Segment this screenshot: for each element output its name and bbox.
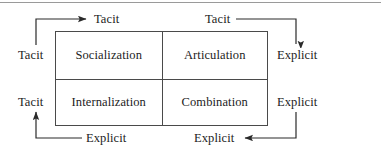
edge-label-left-top: Tacit bbox=[16, 48, 45, 63]
cell-label: Internalization bbox=[72, 95, 146, 110]
edge-label-bottom-left: Explicit bbox=[84, 131, 128, 146]
edge-label-top-right: Tacit bbox=[203, 12, 232, 27]
edge-label-top-left: Tacit bbox=[92, 12, 121, 27]
cell-label: Socialization bbox=[75, 48, 142, 63]
knowledge-conversion-figure: Socialization Articulation Internalizati… bbox=[0, 0, 381, 157]
conversion-matrix: Socialization Articulation Internalizati… bbox=[55, 31, 268, 126]
cell-label: Combination bbox=[182, 95, 248, 110]
cell-label: Articulation bbox=[184, 48, 246, 63]
cell-combination: Combination bbox=[162, 79, 268, 126]
cell-socialization: Socialization bbox=[56, 32, 162, 79]
edge-label-right-top: Explicit bbox=[275, 48, 319, 63]
edge-label-right-bottom: Explicit bbox=[275, 95, 319, 110]
edge-label-bottom-right: Explicit bbox=[192, 131, 236, 146]
edge-label-left-bottom: Tacit bbox=[16, 95, 45, 110]
cell-articulation: Articulation bbox=[162, 32, 268, 79]
cell-internalization: Internalization bbox=[56, 79, 162, 126]
